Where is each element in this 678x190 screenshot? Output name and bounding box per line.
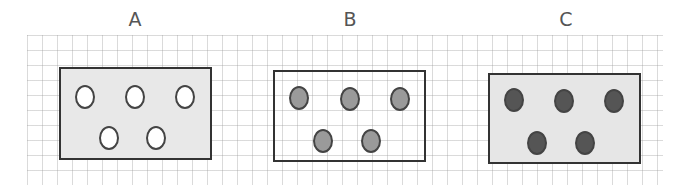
particle-circle [75,85,95,109]
panel-label: A [129,8,142,30]
particle-circle [554,89,574,113]
particle-circle [361,129,381,153]
particle-circle [146,126,166,150]
particle-circle [175,85,195,109]
particle-circle [340,87,360,111]
particle-circle [527,131,547,155]
container-box [59,67,212,160]
panel-label: B [343,8,356,30]
particle-circle [125,85,145,109]
container-box [488,73,641,164]
particle-circle [504,88,524,112]
container-box [273,70,426,162]
particle-circle [313,129,333,153]
panel-label: C [559,8,572,30]
particle-circle [575,131,595,155]
particle-circle [99,126,119,150]
particle-circle [390,87,410,111]
particle-circle [604,89,624,113]
particle-circle [289,86,309,110]
